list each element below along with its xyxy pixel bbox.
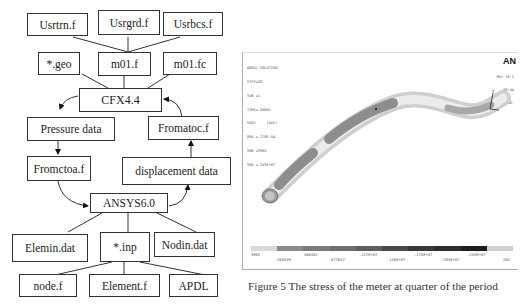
stress-legend-bar (251, 246, 513, 251)
box-m01fc: m01.fc (163, 52, 217, 75)
legend-swatch (251, 246, 277, 251)
svg-text:Y: Y (491, 89, 495, 94)
legend-label: 3965 (251, 252, 260, 257)
legend-label: .204E+07 (441, 257, 459, 262)
legend-label: .233E+07 (467, 252, 485, 257)
box-m01f: m01.f (98, 52, 151, 76)
box-fromctoa: Fromctoa.f (27, 156, 91, 181)
legend-swatch (461, 246, 487, 251)
legend-label: 263 (503, 257, 510, 262)
legend-label: .117E+07 (359, 252, 377, 257)
box-geo: *.geo (38, 52, 80, 75)
box-element: Element.f (89, 274, 160, 297)
figure-caption: Figure 5 The stress of the meter at quar… (248, 280, 498, 292)
legend-swatch (434, 246, 460, 251)
box-displacement-data: displacement data (122, 157, 231, 185)
box-cfx: CFX4.4 (79, 88, 162, 112)
box-usrtrn: Usrtrn.f (27, 13, 88, 36)
legend-swatch (356, 246, 382, 251)
legend-swatch (408, 246, 434, 251)
legend-swatch (303, 246, 329, 251)
meter-pipe-contour: Y (243, 53, 519, 243)
box-ansys: ANSYS6.0 (90, 193, 168, 213)
legend-label: .175E+07 (414, 252, 432, 257)
legend-swatch (382, 246, 408, 251)
box-fromatoc: Fromatoc.f (148, 116, 219, 140)
ansys-stress-plot: NODAL SOLUTION STEP=26 SUB =1 TIME=.0000… (242, 52, 518, 270)
legend-swatch (277, 246, 303, 251)
legend-label: 877647 (331, 257, 345, 262)
box-node: node.f (19, 274, 77, 297)
box-apdl: APDL (169, 274, 218, 297)
legend-label: 566461 (304, 252, 318, 257)
legend-swatch (330, 246, 356, 251)
legend-swatch (487, 246, 513, 251)
box-usrbcs: Usrbcs.f (163, 12, 223, 36)
legend-label: .146E+07 (387, 257, 405, 262)
legend-label: 285839 (277, 257, 291, 262)
box-usrgrd: Usrgrd.f (98, 10, 160, 35)
box-elemin: Elemin.dat (12, 234, 88, 262)
box-inp: *.inp (100, 232, 150, 262)
box-pressure-data: Pressure data (27, 117, 115, 141)
box-nodin: Nodin.dat (154, 232, 215, 257)
stress-legend-labels: 3965 285839 566461 877647 .117E+07 .146E… (249, 252, 515, 268)
